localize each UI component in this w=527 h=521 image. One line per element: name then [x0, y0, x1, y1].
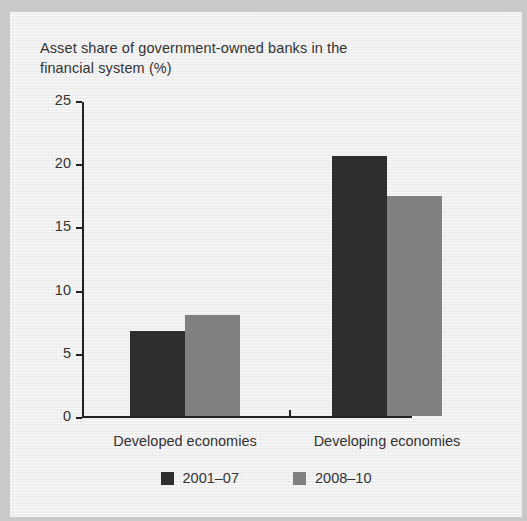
y-tick-label: 25 — [55, 92, 71, 108]
legend-swatch-icon-2008-10 — [293, 472, 306, 485]
x-axis-label-developed-economies: Developed economies — [75, 433, 295, 449]
figure-page: Asset share of government-owned banks in… — [10, 12, 522, 517]
x-axis-label-developing-economies: Developing economies — [277, 433, 497, 449]
chart-legend: 2001–07 2008–10 — [10, 470, 522, 486]
y-tick-mark — [76, 291, 82, 293]
bar-developing-economies-2001-07 — [332, 156, 387, 416]
y-tick-mark — [76, 354, 82, 356]
plot-area: 0510152025 — [82, 102, 412, 418]
chart-title-line-2: financial system (%) — [40, 60, 172, 76]
bar-developing-economies-2008-10 — [387, 196, 442, 416]
y-tick-label: 15 — [55, 218, 71, 234]
y-tick-label: 0 — [63, 408, 71, 424]
y-tick-label: 10 — [55, 282, 71, 298]
x-axis-line — [82, 416, 412, 418]
x-axis-center-tick — [289, 410, 291, 418]
legend-label-2008-10: 2008–10 — [315, 470, 371, 486]
legend-swatch-icon-2001-07 — [161, 472, 174, 485]
y-tick-mark — [76, 417, 82, 419]
bar-developed-economies-2008-10 — [185, 315, 240, 416]
y-tick-label: 5 — [63, 345, 71, 361]
bar-developed-economies-2001-07 — [130, 331, 185, 416]
chart-title-line-1: Asset share of government-owned banks in… — [40, 40, 347, 56]
y-tick-mark — [76, 227, 82, 229]
legend-item-2008-10: 2008–10 — [293, 470, 371, 486]
y-tick-mark — [76, 164, 82, 166]
y-tick-mark — [76, 101, 82, 103]
y-axis-line — [82, 102, 84, 418]
chart-title: Asset share of government-owned banks in… — [40, 38, 370, 78]
legend-item-2001-07: 2001–07 — [161, 470, 239, 486]
y-tick-label: 20 — [55, 155, 71, 171]
legend-label-2001-07: 2001–07 — [183, 470, 239, 486]
